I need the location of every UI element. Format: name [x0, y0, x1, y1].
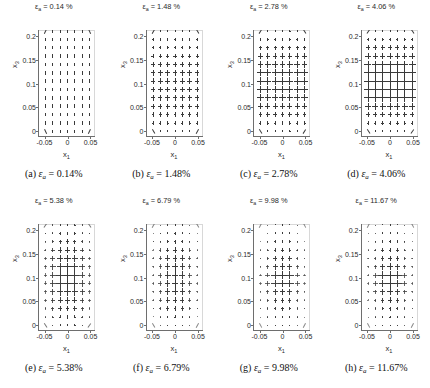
x-axis-label: x1 — [361, 344, 418, 354]
vector-segment — [52, 241, 54, 242]
vector-segment — [404, 241, 405, 242]
vector-segment — [89, 79, 90, 83]
vector-segment — [265, 97, 271, 98]
vector-segment — [152, 266, 154, 267]
vector-segment — [264, 72, 271, 73]
vector-segment — [151, 64, 155, 65]
vector-segment — [58, 250, 62, 251]
vector-segment — [364, 64, 371, 65]
vector-segment — [180, 258, 184, 259]
vector-segment — [52, 38, 53, 41]
vector-segment — [165, 283, 171, 284]
vector-segment — [182, 317, 183, 318]
vector-segment — [44, 30, 47, 33]
y-axis-label-text: x — [333, 258, 342, 262]
vector-segment — [152, 114, 155, 115]
vector-segment — [44, 258, 47, 259]
vector-segment — [196, 300, 197, 301]
vector-segment — [401, 97, 408, 98]
caption-value: = 6.79% — [156, 362, 190, 373]
vector-segment — [389, 317, 390, 318]
xtick-label: 0 — [66, 333, 70, 340]
vector-segment — [57, 291, 63, 292]
vector-segment — [167, 131, 168, 132]
vector-segment — [374, 266, 377, 267]
vector-segment — [297, 317, 298, 318]
vector-segment — [304, 317, 305, 318]
vector-segment — [280, 266, 286, 267]
vector-segment — [382, 241, 384, 242]
vector-segment — [58, 300, 63, 301]
vector-segment — [282, 39, 284, 40]
vector-segment — [80, 300, 84, 301]
vector-segment — [304, 39, 306, 40]
xtick-label: -0.05 — [144, 139, 160, 146]
vector-segment — [52, 325, 53, 326]
vector-segment — [45, 317, 46, 318]
ytick-label: 0.1 — [349, 274, 359, 281]
vector-segment — [382, 308, 384, 309]
vector-segment — [52, 96, 53, 100]
subplot-caption-d: (d) εa = 4.06% — [323, 168, 430, 181]
vector-segment — [296, 39, 298, 40]
vector-segment — [189, 131, 190, 132]
vector-segment — [368, 233, 369, 234]
x-axis-label-subscript: 1 — [174, 154, 177, 160]
vector-segment — [180, 72, 185, 73]
vector-segment — [73, 250, 77, 251]
vector-segment — [196, 266, 198, 267]
vector-segment — [74, 30, 75, 33]
subplot-title-g: εa = 9.98 % — [215, 196, 323, 206]
vector-segment — [59, 317, 61, 318]
subplot-title-c: εa = 2.78 % — [215, 2, 323, 12]
vector-field-b — [147, 30, 203, 136]
ytick-label: 0 — [355, 128, 359, 135]
vector-segment — [82, 30, 83, 33]
vector-segment — [196, 56, 199, 57]
vector-segment — [59, 233, 61, 234]
vector-segment — [367, 300, 368, 301]
vector-segment — [388, 258, 392, 259]
vector-segment — [174, 317, 176, 318]
vector-segment — [368, 308, 369, 309]
vector-segment — [388, 114, 392, 115]
vector-segment — [88, 300, 90, 301]
vector-segment — [411, 258, 412, 259]
vector-segment — [152, 258, 153, 259]
vector-segment — [189, 317, 190, 318]
vector-segment — [89, 241, 90, 242]
vector-segment — [158, 81, 163, 82]
vector-segment — [159, 47, 161, 48]
vector-segment — [172, 283, 178, 284]
vector-segment — [375, 308, 376, 309]
x-axis-label-subscript: 1 — [389, 348, 392, 354]
vector-segment — [401, 64, 408, 65]
vector-segment — [365, 106, 371, 107]
xtick-label: -0.05 — [252, 139, 268, 146]
vector-segment — [265, 283, 270, 284]
vector-segment — [167, 31, 168, 32]
vector-segment — [45, 233, 46, 234]
vector-segment — [188, 114, 191, 115]
vector-segment — [381, 47, 385, 48]
vector-segment — [257, 89, 264, 90]
vector-segment — [67, 79, 68, 83]
vector-segment — [165, 258, 169, 259]
vector-segment — [60, 71, 61, 75]
vector-segment — [67, 30, 68, 33]
subplot-c: εa = 2.78 %00.050.10.150.2-0.0500.05x3x1… — [215, 0, 323, 194]
vector-segment — [166, 300, 170, 301]
y-axis-label: x3 — [333, 61, 343, 68]
vector-segment — [267, 317, 268, 318]
vector-segment — [408, 97, 415, 98]
vector-segment — [180, 291, 185, 292]
vector-segment — [195, 106, 199, 107]
ytick-label: 0.1 — [349, 80, 359, 87]
vector-segment — [151, 30, 154, 33]
vector-segment — [173, 81, 178, 82]
vector-segment — [274, 250, 276, 251]
vector-segment — [44, 250, 46, 251]
vector-segment — [152, 291, 154, 292]
ytick-label: 0.05 — [22, 298, 36, 305]
x-axis-label: x1 — [38, 150, 95, 160]
